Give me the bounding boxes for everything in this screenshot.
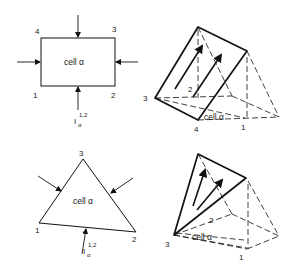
vertex-label-2: 2 [188, 85, 193, 94]
cell-label: cell α [192, 232, 212, 242]
vertex-label-4: 4 [194, 125, 199, 134]
vertex-label-2: 2 [111, 91, 116, 100]
vertex-label-3: 3 [112, 25, 117, 34]
cell-label: cell α [204, 112, 224, 122]
svg-text:α: α [78, 122, 82, 128]
vertex-label-3: 3 [165, 240, 170, 249]
vertex-label-3: 3 [79, 149, 84, 158]
svg-text:1,2: 1,2 [88, 242, 97, 248]
vertex-label-2: 2 [132, 235, 137, 244]
vertex-label-2: 2 [209, 216, 214, 225]
flux-arrow-upper-right [111, 178, 133, 193]
diagram-canvas: cell α 4 3 1 2 I α 1,2 cell α 3 2 4 1 [0, 0, 306, 266]
prism-flux-face [155, 27, 247, 120]
cell-label: cell α [64, 57, 84, 67]
face-arrow-2 [193, 55, 221, 97]
prism-cell-panel: cell α 3 2 4 1 [143, 27, 279, 134]
flux-arrow-upper-left [38, 176, 61, 191]
svg-text:I: I [74, 117, 76, 126]
flux-label: I α 1,2 [74, 112, 88, 128]
flux-label: I α 1,2 [83, 242, 97, 258]
cell-label: cell α [73, 196, 93, 206]
vertex-label-1: 1 [35, 226, 40, 235]
svg-text:1,2: 1,2 [79, 112, 88, 118]
triangle-cell-panel: cell α 3 1 2 I α 1,2 [35, 149, 137, 258]
vertex-label-1: 1 [241, 123, 246, 132]
face-arrow-1 [193, 170, 205, 206]
vertex-label-1: 1 [33, 91, 38, 100]
vertex-label-1: 1 [239, 253, 244, 262]
svg-text:I: I [83, 247, 85, 256]
svg-text:α: α [87, 252, 91, 258]
vertex-label-3: 3 [143, 94, 148, 103]
rect-cell-panel: cell α 4 3 1 2 I α 1,2 [17, 15, 138, 128]
tetra-cell-panel: cell α 2 3 1 [165, 154, 279, 262]
vertex-label-4: 4 [35, 27, 40, 36]
prism-hidden-edges [155, 27, 279, 120]
